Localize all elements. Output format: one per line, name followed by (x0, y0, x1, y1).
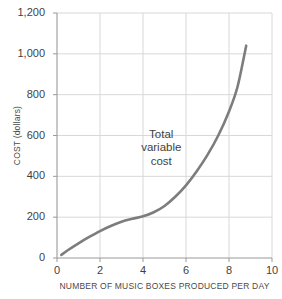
x-tick-label: 6 (171, 264, 201, 276)
x-tick-label: 0 (42, 264, 72, 276)
annotation-line: Total (131, 128, 191, 142)
total-variable-cost-annotation: Totalvariablecost (131, 128, 191, 169)
x-tick-label: 2 (85, 264, 115, 276)
chart-figure: 02004006008001,0001,200 0246810 COST (do… (0, 0, 282, 299)
x-tick-label: 8 (214, 264, 244, 276)
annotation-line: variable (131, 141, 191, 155)
x-axis-title: NUMBER OF MUSIC BOXES PRODUCED PER DAY (57, 281, 272, 291)
annotation-line: cost (131, 155, 191, 169)
y-axis-title: COST (dollars) (10, 13, 24, 258)
x-tick-label: 4 (128, 264, 158, 276)
x-tick-label: 10 (257, 264, 282, 276)
